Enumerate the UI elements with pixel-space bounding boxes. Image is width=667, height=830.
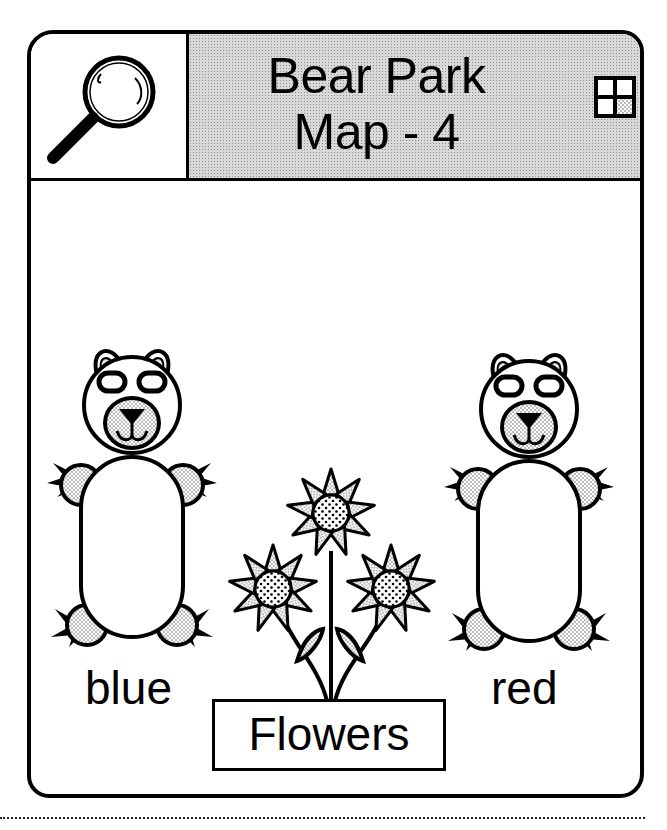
bear-label-blue: blue <box>85 663 172 713</box>
bear-blue-icon[interactable] <box>47 347 222 657</box>
card-header: Bear Park Map - 4 <box>31 34 640 181</box>
map-card: Bear Park Map - 4 blue red <box>27 30 644 798</box>
magnifying-glass-icon <box>31 34 186 178</box>
grid-quadrant-icon[interactable] <box>594 76 636 118</box>
title-area: Bear Park Map - 4 <box>189 34 640 178</box>
bear-label-red: red <box>491 663 557 713</box>
bear-red-icon[interactable] <box>444 351 619 661</box>
flowers-icon[interactable] <box>227 461 447 703</box>
park-scene: blue red Flowers <box>31 181 640 794</box>
dotted-divider <box>0 817 645 819</box>
magnifier-button[interactable] <box>31 34 189 178</box>
page-title: Bear Park Map - 4 <box>189 48 564 160</box>
flowers-label-box[interactable]: Flowers <box>212 699 446 771</box>
